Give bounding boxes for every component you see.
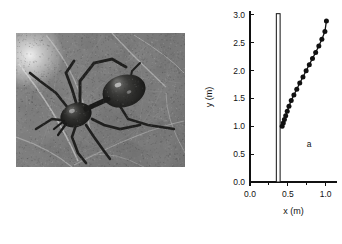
- x-axis-title: x (m): [283, 206, 304, 216]
- trajectory-point: [304, 68, 309, 73]
- trajectory-point: [283, 113, 288, 118]
- trajectory-point: [289, 98, 294, 103]
- y-tick-label: 2.5: [233, 38, 245, 48]
- trajectory-plot: 0.00.51.01.52.02.53.00.00.51.0ax (m)y (m…: [196, 0, 342, 244]
- trajectory-point: [300, 74, 305, 79]
- y-tick-label: 1.0: [233, 121, 245, 131]
- trajectory-point: [319, 37, 324, 42]
- y-tick-label: 1.5: [233, 93, 245, 103]
- trajectory-point: [291, 93, 296, 98]
- vertical-rod: [276, 14, 280, 182]
- trajectory-point: [313, 50, 318, 55]
- x-tick-label: 0.5: [282, 189, 294, 199]
- trajectory-point: [285, 109, 290, 114]
- trajectory-point: [324, 18, 329, 23]
- trajectory-point: [310, 56, 315, 61]
- trajectory-point: [286, 104, 291, 109]
- spider-photograph: [16, 33, 185, 167]
- y-tick-label: 3.0: [233, 10, 245, 20]
- trajectory-point: [322, 29, 327, 34]
- y-axis-title: y (m): [204, 87, 214, 108]
- x-tick-label: 0.0: [244, 189, 256, 199]
- trajectory-point: [307, 62, 312, 67]
- trajectory-point: [294, 87, 299, 92]
- trajectory-chart-panel: 0.00.51.01.52.02.53.00.00.51.0ax (m)y (m…: [196, 0, 342, 244]
- trajectory-point: [297, 81, 302, 86]
- y-tick-label: 2.0: [233, 66, 245, 76]
- panel-label-a: a: [307, 139, 312, 149]
- spider-photo-panel: [16, 33, 185, 167]
- y-tick-label: 0.5: [233, 149, 245, 159]
- trajectory-point: [316, 44, 321, 49]
- y-tick-label: 0.0: [233, 177, 245, 187]
- x-tick-label: 1.0: [320, 189, 332, 199]
